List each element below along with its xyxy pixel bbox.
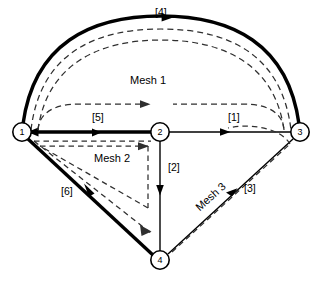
branch-label-1: [1] xyxy=(228,111,240,123)
node-circles xyxy=(0,0,324,282)
node-4-label: 4 xyxy=(151,251,169,269)
node-2-label: 2 xyxy=(151,123,169,141)
branch-label-2: [2] xyxy=(168,161,180,173)
branch-label-3: [3] xyxy=(244,182,256,194)
branch-label-5: [5] xyxy=(92,111,104,123)
node-3-label: 3 xyxy=(291,123,309,141)
mesh-2-label: Mesh 2 xyxy=(94,152,130,164)
node-1-label: 1 xyxy=(13,123,31,141)
mesh-1-label: Mesh 1 xyxy=(130,74,166,86)
circuit-mesh-diagram: 1 2 3 4 [1] [2] [3] [4] [5] [6] Mesh 1 M… xyxy=(0,0,324,282)
branch-label-6: [6] xyxy=(61,185,73,197)
branch-label-4: [4] xyxy=(155,6,167,18)
